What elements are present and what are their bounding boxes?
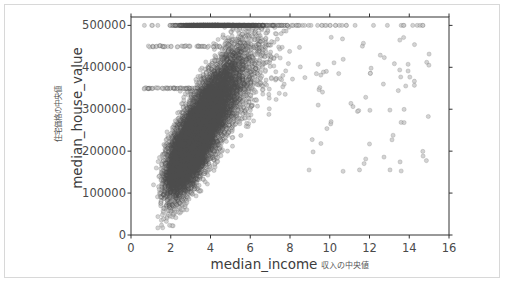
- x-tick-label: 2: [167, 241, 174, 255]
- y-axis-label-japanese: 住宅価格の中央値: [52, 5, 66, 223]
- x-axis-label: median_income収入の中央値: [131, 256, 449, 272]
- x-tick-label: 8: [286, 241, 293, 255]
- x-tick-label: 6: [247, 241, 254, 255]
- x-tick-label: 4: [207, 241, 214, 255]
- y-axis-label-latin: median_house_value: [66, 9, 88, 227]
- x-tick-label: 10: [322, 241, 337, 255]
- x-tick-label: 0: [127, 241, 134, 255]
- x-axis-label-latin: median_income: [211, 256, 318, 272]
- x-axis-label-japanese: 収入の中央値: [321, 261, 369, 270]
- x-tick-label: 16: [442, 241, 457, 255]
- x-tick-label: 12: [362, 241, 377, 255]
- x-tick-label: 14: [402, 241, 417, 255]
- y-axis-label-jp-wrap: 住宅価格の中央値: [38, 17, 64, 235]
